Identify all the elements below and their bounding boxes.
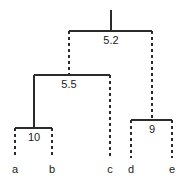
leaf-label-d: d xyxy=(128,164,134,175)
node-label-mid: 5.5 xyxy=(59,79,78,90)
node-label-right-pair: 9 xyxy=(147,124,157,135)
node-label-root: 5.2 xyxy=(101,35,120,46)
node-label-left-pair: 10 xyxy=(26,132,42,143)
dendrogram-figure: 5.2 5.5 10 9 a b c d e xyxy=(0,0,184,184)
leaf-label-c: c xyxy=(107,164,113,175)
leaf-label-b: b xyxy=(49,164,55,175)
leaf-label-a: a xyxy=(12,164,18,175)
dendrogram-lines xyxy=(0,0,184,184)
leaf-label-e: e xyxy=(169,164,175,175)
